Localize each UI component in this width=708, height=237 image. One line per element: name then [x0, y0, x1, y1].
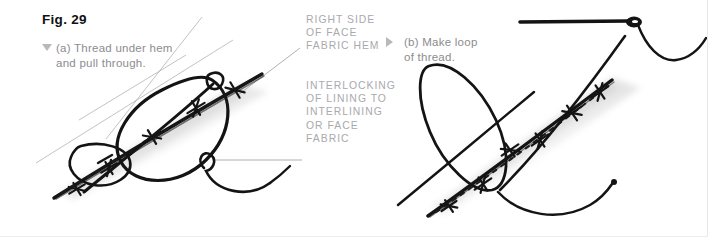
annotation-interlocking-of-lining: INTERLOCKING OF LINING TO INTERLINING OR… — [306, 79, 396, 145]
fabric-edge-line-b — [428, 80, 612, 216]
thread-from-eye-b — [638, 25, 706, 60]
needle-shaft-a — [84, 84, 213, 192]
figure-panel: Fig. 29 (a) Thread under hem and pull th… — [0, 0, 708, 237]
figure-title: Fig. 29 — [42, 12, 87, 27]
thread-tail-a — [200, 153, 270, 191]
caption-panel-a: (a) Thread under hem and pull through. — [56, 41, 226, 70]
triangle-down-icon — [42, 44, 52, 51]
thread-end-dot-b — [611, 179, 617, 185]
thread-tail-b — [498, 184, 612, 215]
needle-shaft-b — [520, 21, 628, 22]
triangle-right-icon — [386, 37, 393, 47]
annotation-right-side-of-face-fabric-hem: RIGHT SIDE OF FACE FABRIC HEM — [306, 13, 380, 53]
leader-line-right-side — [238, 48, 300, 95]
construction-lines-a — [36, 17, 233, 163]
caption-panel-b: (b) Make loop of thread. — [404, 35, 534, 64]
